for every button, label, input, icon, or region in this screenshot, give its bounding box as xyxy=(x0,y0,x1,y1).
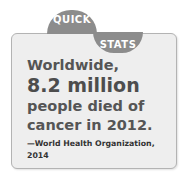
stat-source-citation: —World Health Organization, 2014 xyxy=(27,138,177,162)
stat-line-people-died: people died of xyxy=(27,97,177,116)
stat-text-block: Worldwide, 8.2 million people died of ca… xyxy=(27,56,177,162)
stat-line-worldwide: Worldwide, xyxy=(27,56,177,74)
quick-tab-label: QUICK xyxy=(47,10,97,34)
stat-line-cancer-year: cancer in 2012. xyxy=(27,116,177,135)
stats-tab-label: STATS xyxy=(93,32,143,53)
stat-highlight-number: 8.2 million xyxy=(27,74,177,96)
